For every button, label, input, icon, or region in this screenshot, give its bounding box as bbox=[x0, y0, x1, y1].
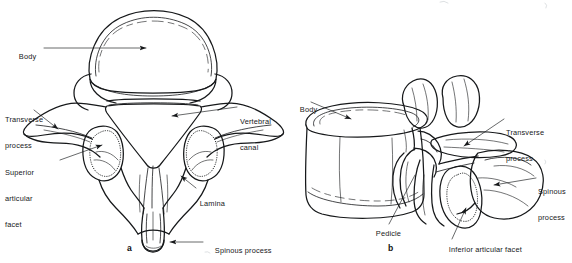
label-a-superior-articular-facet: Superior articular facet bbox=[5, 152, 34, 247]
label-a-spinous-process: Spinous process bbox=[206, 238, 272, 263]
vertebra-line-drawing: .ink { fill:none; stroke:#16181a; stroke… bbox=[0, 0, 572, 263]
label-b-inferior-articular-facet: Inferior articular facet bbox=[440, 237, 522, 263]
label-b-pedicle: Pedicle bbox=[367, 221, 401, 247]
panel-letter-a: a bbox=[127, 243, 132, 253]
label-b-spinous-process: Spinous process bbox=[538, 171, 566, 240]
anatomy-figure: .ink { fill:none; stroke:#16181a; stroke… bbox=[0, 0, 572, 263]
label-a-lamina: Lamina bbox=[191, 191, 225, 217]
label-b-body: Body bbox=[291, 97, 317, 123]
panel-letter-b: b bbox=[388, 243, 393, 253]
label-a-body: Body bbox=[10, 44, 36, 70]
label-a-vertebral-canal: Vertebral canal bbox=[240, 101, 271, 170]
